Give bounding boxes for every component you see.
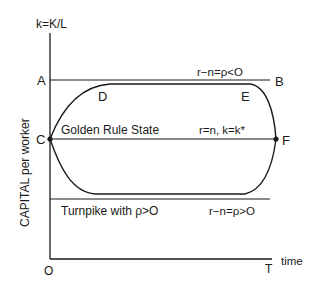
point-F-dot	[273, 136, 278, 141]
golden-rule-label: Golden Rule State	[61, 123, 159, 137]
turnpike-diagram: k=K/L CAPITAL per worker A B C D E F r−n…	[0, 0, 322, 289]
point-C-dot	[47, 136, 52, 141]
origin-label: O	[44, 264, 53, 278]
point-B-label: B	[275, 74, 284, 89]
y-axis-title: CAPITAL per worker	[18, 118, 32, 227]
y-axis-label: k=K/L	[36, 17, 67, 31]
turnpike-condition: r−n=ρ>O	[209, 205, 255, 217]
point-D-label: D	[98, 89, 107, 104]
point-A-label: A	[37, 73, 46, 88]
turnpike-label: Turnpike with ρ>O	[61, 204, 158, 218]
end-time-label: T	[265, 262, 273, 276]
upper-line-condition: r−n=ρ<O	[197, 66, 243, 78]
lower-path-CF	[50, 139, 276, 194]
x-axis-label: time	[281, 255, 303, 267]
point-F-label: F	[282, 133, 290, 148]
point-C-label: C	[36, 132, 45, 147]
point-E-label: E	[241, 89, 250, 104]
golden-rule-condition: r=n, k=k*	[199, 124, 246, 136]
